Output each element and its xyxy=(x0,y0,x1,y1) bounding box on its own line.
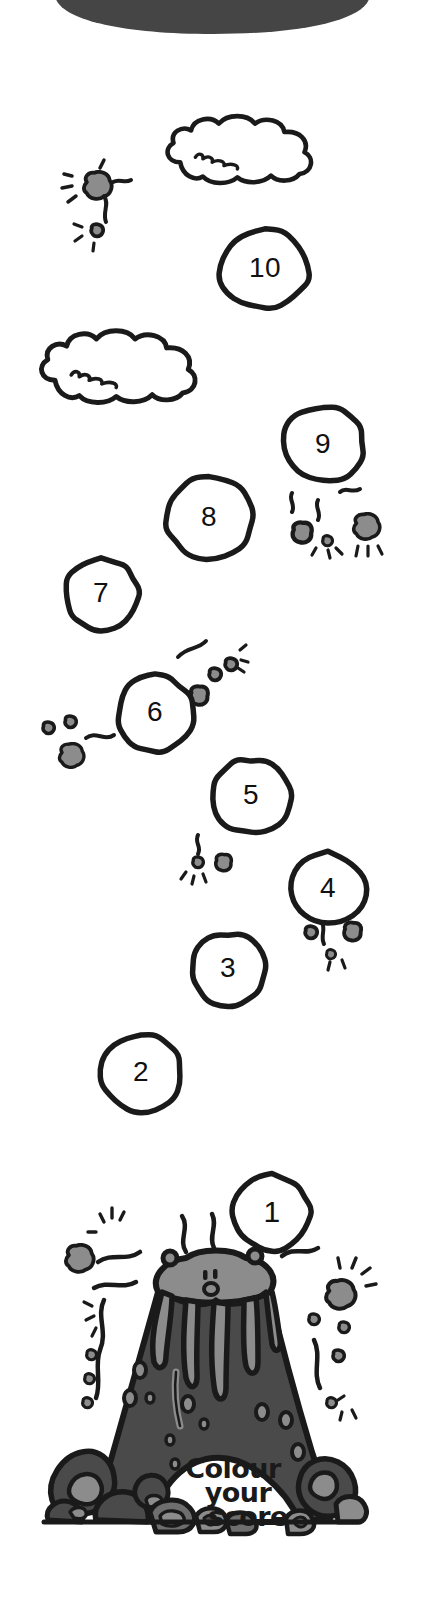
score-marker-7[interactable]: 7 xyxy=(66,558,139,631)
score-marker-5[interactable]: 5 xyxy=(213,760,292,833)
score-marker-3[interactable]: 3 xyxy=(193,934,266,1006)
score-marker-1[interactable]: 1 xyxy=(232,1173,311,1251)
score-marker-label: 6 xyxy=(147,696,163,727)
score-marker-label: 9 xyxy=(315,428,331,459)
face-nose xyxy=(204,1283,218,1295)
score-marker-9[interactable]: 9 xyxy=(283,407,363,481)
crater-bump-right xyxy=(248,1249,262,1263)
score-marker-8[interactable]: 8 xyxy=(166,477,253,560)
score-marker-label: 4 xyxy=(320,872,336,903)
face-eye-left xyxy=(203,1270,208,1280)
score-marker-label: 3 xyxy=(220,952,236,983)
score-marker-label: 10 xyxy=(249,252,281,283)
score-caption-line-3: score xyxy=(208,1501,288,1532)
crater-bump-left xyxy=(163,1251,177,1265)
face-eye-right xyxy=(213,1269,218,1279)
score-marker-label: 8 xyxy=(201,501,217,532)
steam-line-right xyxy=(212,1214,214,1248)
score-marker-label: 1 xyxy=(263,1195,280,1228)
score-marker-10[interactable]: 10 xyxy=(219,229,309,309)
volcano-score-illustration: Colour your score 10987654321 xyxy=(0,0,427,1610)
score-marker-2[interactable]: 2 xyxy=(100,1035,180,1113)
score-marker-label: 2 xyxy=(133,1056,149,1087)
score-marker-6[interactable]: 6 xyxy=(118,674,194,752)
steam-line-left xyxy=(182,1216,186,1252)
score-marker-label: 5 xyxy=(243,779,259,810)
worksheet-page: Colour your score 10987654321 xyxy=(0,0,427,1610)
score-marker-label: 7 xyxy=(93,577,109,608)
